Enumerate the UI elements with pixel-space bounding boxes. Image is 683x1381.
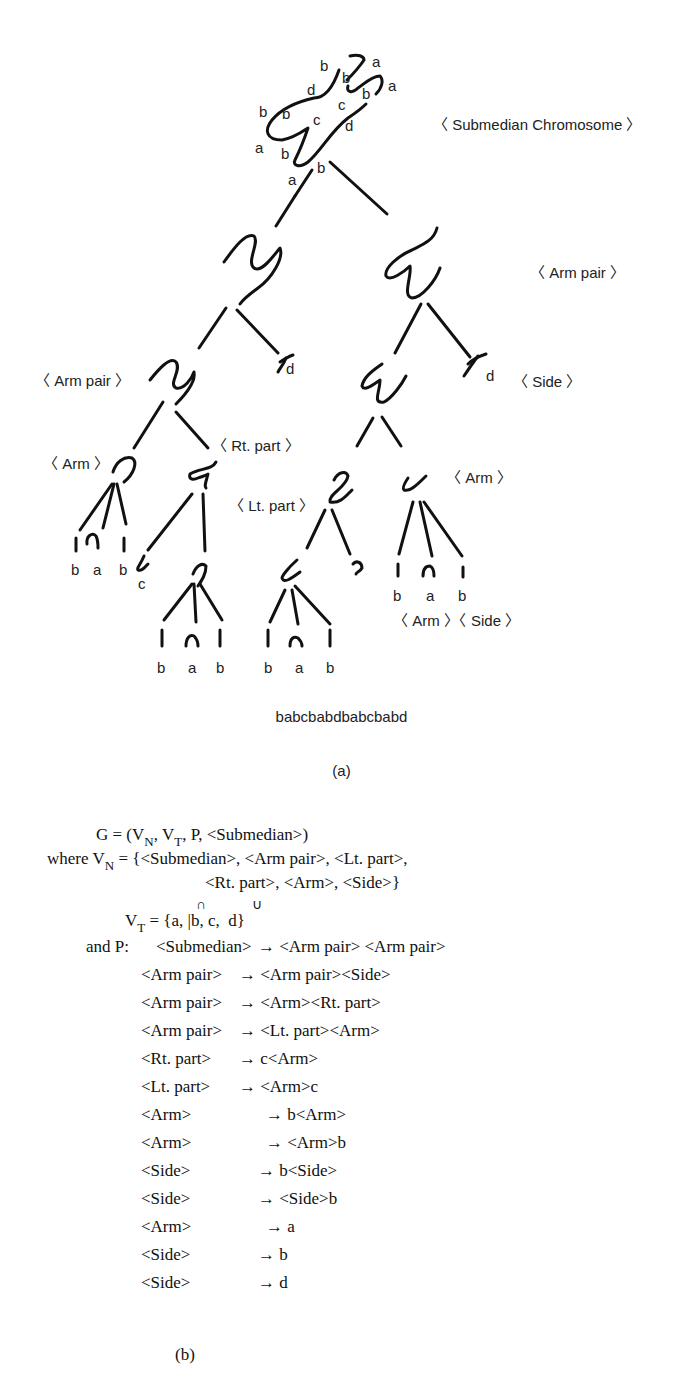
chromosome-letter: b [281, 146, 289, 161]
node-label-arm-right: 〈 Arm 〉 [446, 470, 512, 485]
nonterminals-continuation: <Rt. part>, <Arm>, <Side>} [205, 874, 400, 891]
arm-pair-right-level2-shape [362, 364, 406, 402]
leaf-letter: b [71, 562, 79, 577]
subscript-n: N [144, 834, 153, 849]
rule-lhs: <Side> [141, 1246, 190, 1263]
chromosome-letter: a [388, 78, 396, 93]
rule-lhs: <Arm> [141, 1218, 191, 1235]
terminals-line: VT = {a, |b, c, d} [125, 912, 245, 929]
leaf-letter: a [426, 588, 434, 603]
rule-rhs: → <Arm pair> <Arm pair> [258, 938, 446, 955]
rule-lhs: <Lt. part> [141, 1078, 210, 1095]
grammar-tuple-line: G = (VN, VT, P, <Submedian>) [96, 826, 308, 843]
grammar-text: , P, <Submedian>) [182, 825, 308, 844]
subscript-t: T [174, 834, 182, 849]
derived-string: babcbabdbabcbabd [0, 708, 683, 725]
rule-rhs: → b [258, 1246, 288, 1263]
rule-rhs: → <Arm>b [266, 1134, 346, 1151]
rule-lhs: <Side> [141, 1274, 190, 1291]
rule-rhs: → <Lt. part><Arm> [239, 1022, 380, 1039]
leaf-letter: b [264, 660, 272, 675]
rule-rhs: → <Arm><Rt. part> [239, 994, 381, 1011]
leaf-d-left: d [286, 361, 294, 376]
rule-lhs: <Arm pair> [141, 966, 222, 983]
leaf-letter: b [326, 660, 334, 675]
chromosome-letter: c [313, 112, 321, 127]
grammar-text: V [125, 911, 137, 930]
node-label-arm-side-bottom: 〈 Arm 〉〈 Side 〉 [393, 613, 520, 628]
cap-symbol: ∩ [196, 898, 206, 912]
rule-rhs: → <Arm pair><Side> [239, 966, 391, 983]
leaf-letter: a [93, 562, 101, 577]
chromosome-letter: b [259, 104, 267, 119]
grammar-text: , V [154, 825, 174, 844]
grammar-text: = {<Submedian>, <Arm pair>, <Lt. part>, [114, 849, 407, 868]
rule-lhs: <Arm pair> [141, 994, 222, 1011]
grammar-text: where V [47, 849, 105, 868]
nonterminals-line: where VN = {<Submedian>, <Arm pair>, <Lt… [47, 850, 408, 867]
leaf-letter: b [458, 588, 466, 603]
rule-lhs: <Arm> [141, 1134, 191, 1151]
rule-lhs: <Side> [141, 1190, 190, 1207]
node-label-lt-part: 〈 Lt. part 〉 [229, 498, 314, 513]
chromosome-letter: b [362, 86, 370, 101]
chromosome-letter: b [342, 70, 350, 85]
arm-left-shape [113, 458, 135, 482]
rt-part-shape [190, 462, 216, 488]
leaf-letter: b [216, 660, 224, 675]
grammar-text: G = (V [96, 825, 144, 844]
leaf-letter: b [119, 562, 127, 577]
productions-label: and P: [86, 938, 129, 955]
node-label-submedian-chromosome: 〈 Submedian Chromosome 〉 [433, 117, 641, 132]
node-label-arm-left: 〈 Arm 〉 [43, 456, 109, 471]
leaf-letter: a [188, 660, 196, 675]
rule-lhs: <Submedian> [156, 938, 252, 955]
cup-symbol: ∪ [252, 898, 262, 912]
arm-pair-right-shape [386, 228, 440, 298]
node-label-side: 〈 Side 〉 [513, 374, 581, 389]
rule-rhs: → <Arm>c [239, 1078, 318, 1095]
chromosome-letter: c [338, 97, 346, 112]
caption-a: (a) [0, 762, 683, 779]
chromosome-letter: b [282, 106, 290, 121]
arm-pair-level2-shape [150, 361, 194, 404]
rule-lhs: <Side> [141, 1162, 190, 1179]
chromosome-letter: b [320, 58, 328, 73]
chromosome-letter: d [307, 82, 315, 97]
rule-rhs: → c<Arm> [239, 1050, 318, 1067]
rule-rhs: → b<Side> [258, 1162, 337, 1179]
rule-lhs: <Arm> [141, 1106, 191, 1123]
chromosome-letter: a [255, 140, 263, 155]
leaf-letter: b [393, 588, 401, 603]
caption-b: (b) [175, 1345, 195, 1365]
lt-part-shape [330, 473, 352, 503]
subscript-n: N [105, 858, 114, 873]
leaf-letter: b [157, 660, 165, 675]
rule-lhs: <Rt. part> [141, 1050, 211, 1067]
parse-tree-figure-a: b b a a d c b b c d b a b a b 〈 Submedia… [0, 0, 683, 800]
leaf-letter: a [295, 660, 303, 675]
node-label-arm-pair-left: 〈 Arm pair 〉 [35, 373, 130, 388]
node-label-rt-part: 〈 Rt. part 〉 [212, 438, 300, 453]
arm-right-shape [403, 476, 426, 490]
chromosome-letter: a [372, 54, 380, 69]
chromosome-letter: b [317, 160, 325, 175]
chromosome-letter: a [288, 172, 296, 187]
leaf-c: c [138, 576, 146, 591]
grammar-text: = {a, |b, c, d} [145, 911, 245, 930]
arm-pair-left-shape [224, 235, 281, 304]
rule-rhs: → d [258, 1274, 288, 1291]
rule-rhs: → <Side>b [258, 1190, 337, 1207]
subscript-t: T [137, 920, 145, 935]
node-label-arm-pair-right: 〈 Arm pair 〉 [530, 265, 625, 280]
leaf-d-right: d [486, 368, 494, 383]
rule-rhs: → a [266, 1218, 295, 1235]
chromosome-letter: d [345, 118, 353, 133]
rule-rhs: → b<Arm> [266, 1106, 346, 1123]
rule-lhs: <Arm pair> [141, 1022, 222, 1039]
